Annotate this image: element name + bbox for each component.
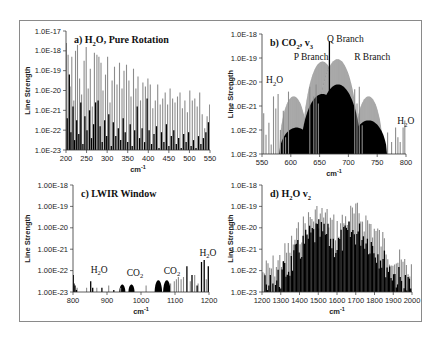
x-tick-label: 1600	[329, 296, 346, 305]
y-tick-label: 1.0E-17	[35, 27, 61, 36]
y-tick-label: 1.0E-22	[231, 266, 257, 275]
x-tick-label: 550	[204, 154, 217, 163]
x-tick-label: 900	[101, 296, 114, 305]
annotation-label: CO2	[127, 268, 143, 280]
x-tick-label: 1100	[167, 296, 183, 305]
x-tick-label: 1900	[385, 296, 402, 305]
x-tick-label: 500	[183, 154, 196, 163]
x-tick-label: 450	[163, 154, 176, 163]
y-tick-label: 1.0E-18	[231, 181, 257, 190]
x-tick-label: 750	[371, 158, 384, 167]
y-axis-label: Line Strength	[23, 214, 32, 263]
y-tick-label: 1.00E-22	[38, 266, 68, 275]
x-axis-label: cm-1	[329, 306, 345, 316]
x-tick-label: 350	[121, 154, 134, 163]
annotation-label: CO2	[164, 266, 180, 278]
plot-area	[263, 203, 412, 303]
x-tick-label: 700	[342, 158, 355, 167]
x-axis-label: cm-1	[133, 306, 149, 316]
y-tick-label: 1.0E-22	[231, 126, 257, 135]
y-tick-label: 1.0E-18	[35, 46, 61, 55]
panel-title: d) H2O v2	[270, 188, 311, 201]
y-tick-label: 1.0E-19	[35, 66, 61, 75]
chart-panel-c: 1.00E-231.00E-221.00E-211.00E-201.00E-19…	[23, 181, 217, 316]
x-tick-label: 1300	[272, 296, 289, 305]
panel-title: b) CO2, v3	[270, 37, 314, 50]
y-tick-label: 1.0E-18	[231, 30, 257, 39]
y-tick-label: 1.0E-21	[35, 106, 61, 115]
annotation-label: H2O	[91, 265, 108, 277]
annotation-label: Q Branch	[327, 34, 364, 44]
y-tick-label: 1.0E-23	[35, 146, 61, 155]
x-tick-label: 600	[285, 158, 298, 167]
figure-canvas: 1.0E-231.0E-221.0E-211.0E-201.0E-191.0E-…	[0, 0, 441, 343]
y-tick-label: 1.0E-19	[231, 54, 257, 63]
x-tick-label: 1000	[133, 296, 150, 305]
annotation-label: P Branch	[294, 52, 329, 62]
y-tick-label: 1.00E-20	[38, 223, 68, 232]
y-axis-label: Line Strength	[226, 69, 235, 118]
y-tick-label: 1.00E-18	[38, 181, 68, 190]
annotation-label: H2O	[266, 75, 283, 87]
chart-panel-d: 1.0E-231.0E-221.0E-211.0E-201.0E-191.0E-…	[226, 181, 420, 316]
x-tick-label: 800	[400, 158, 413, 167]
y-axis-label: Line Strength	[226, 214, 235, 263]
x-tick-label: 1800	[366, 296, 383, 305]
plot-area	[66, 43, 209, 150]
y-tick-label: 1.0E-19	[231, 202, 257, 211]
y-axis-label: Line Strength	[23, 66, 32, 115]
y-tick-label: 1.00E-21	[38, 245, 68, 254]
y-tick-label: 1.00E-23	[38, 288, 68, 297]
y-tick-label: 1.0E-22	[35, 126, 61, 135]
band-envelope	[128, 285, 134, 293]
x-axis-label: cm-1	[326, 168, 342, 178]
x-tick-label: 1700	[347, 296, 364, 305]
y-tick-label: 1.0E-23	[231, 150, 257, 159]
chart-panel-b: 1.0E-231.0E-221.0E-211.0E-201.0E-191.0E-…	[226, 30, 414, 178]
y-tick-label: 1.0E-20	[35, 86, 61, 95]
x-tick-label: 200	[60, 154, 73, 163]
chart-panel-a: 1.0E-231.0E-221.0E-211.0E-201.0E-191.0E-…	[23, 27, 216, 174]
band-envelope	[163, 280, 171, 292]
y-tick-label: 1.00E-19	[38, 202, 68, 211]
x-tick-label: 1500	[310, 296, 327, 305]
panel-title: c) LWIR Window	[81, 188, 157, 200]
panel-title: a) H2O, Pure Rotation	[74, 34, 169, 47]
x-tick-label: 1400	[291, 296, 308, 305]
x-tick-label: 250	[80, 154, 93, 163]
x-tick-label: 550	[256, 158, 269, 167]
x-tick-label: 1200	[254, 296, 271, 305]
x-axis-label: cm-1	[130, 164, 146, 174]
x-tick-label: 400	[142, 154, 155, 163]
annotation-label: R Branch	[354, 52, 390, 62]
x-tick-label: 2000	[404, 296, 421, 305]
band-envelope	[155, 280, 163, 292]
x-tick-label: 300	[101, 154, 114, 163]
x-tick-label: 1200	[201, 296, 218, 305]
x-tick-label: 650	[313, 158, 326, 167]
annotation-label: H2O	[199, 248, 216, 260]
x-tick-label: 800	[67, 296, 80, 305]
annotation-label: H2O	[397, 116, 414, 128]
